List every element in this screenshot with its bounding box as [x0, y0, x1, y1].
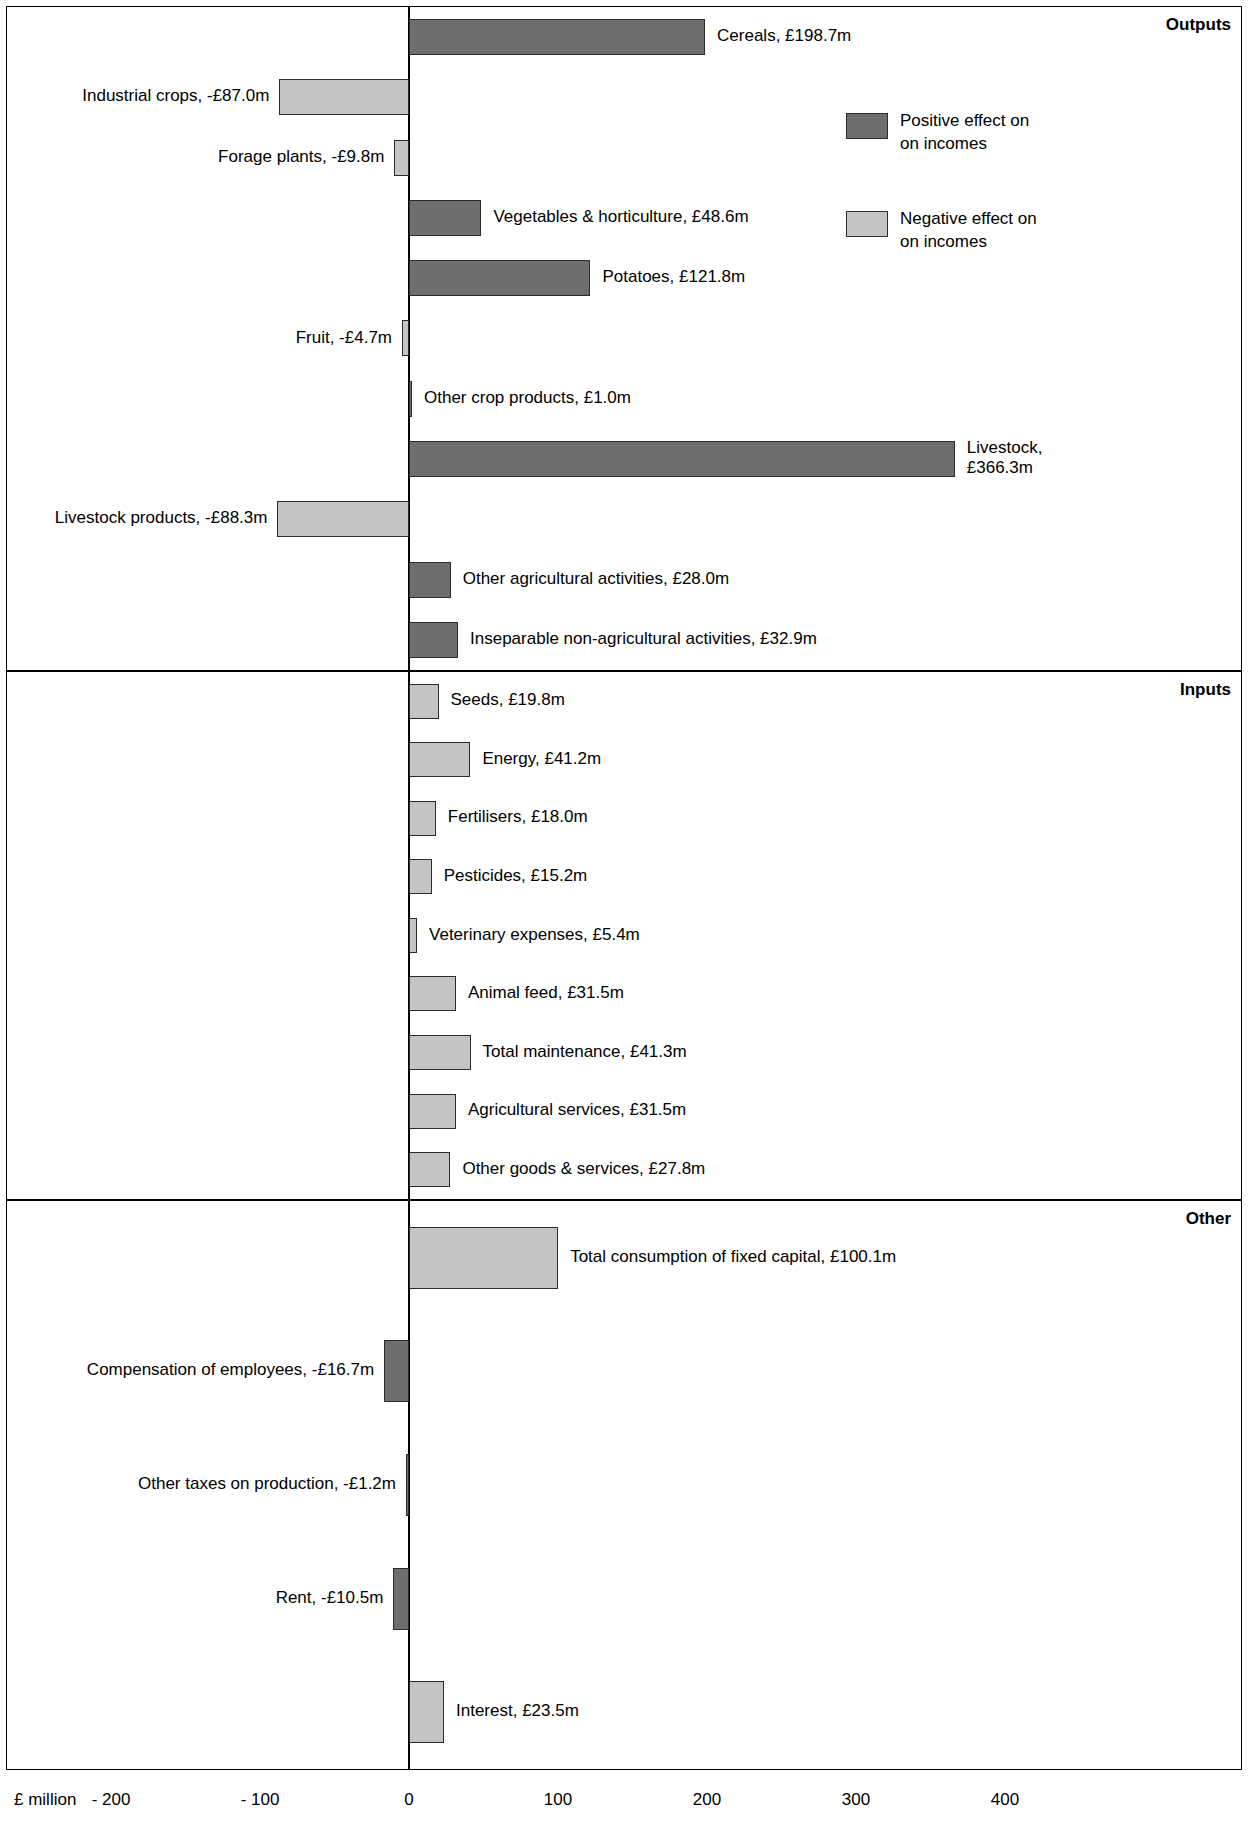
bar-label: Animal feed, £31.5m: [468, 983, 624, 1003]
bar: [409, 918, 417, 953]
bar-label: Agricultural services, £31.5m: [468, 1100, 686, 1120]
legend-label-positive-line2: on incomes: [900, 133, 1029, 156]
bar-label-line: £366.3m: [967, 458, 1043, 478]
panel-title-inputs: Inputs: [1180, 680, 1231, 700]
x-tick-label: - 100: [241, 1790, 280, 1810]
legend-label-positive-line1: Positive effect on: [900, 110, 1029, 133]
legend-swatch-negative: [846, 211, 888, 237]
bar-label: Interest, £23.5m: [456, 1701, 579, 1721]
bar-label: Energy, £41.2m: [482, 749, 601, 769]
bar: [409, 1152, 450, 1187]
bar: [409, 441, 955, 477]
bar-label: Total maintenance, £41.3m: [483, 1042, 687, 1062]
bar-label: Other agricultural activities, £28.0m: [463, 569, 729, 589]
x-tick-label: 0: [404, 1790, 413, 1810]
bar-label: Pesticides, £15.2m: [444, 866, 588, 886]
bar: [409, 622, 458, 658]
bar: [406, 1454, 409, 1516]
bar-label: Livestock products, -£88.3m: [55, 508, 268, 528]
bar-label: Livestock,£366.3m: [967, 438, 1043, 478]
panel-title-outputs: Outputs: [1166, 15, 1231, 35]
bar-label: Seeds, £19.8m: [451, 690, 565, 710]
bar: [279, 79, 409, 115]
bar: [409, 200, 481, 236]
bar-label-line: Livestock,: [967, 438, 1043, 458]
axis-unit-label: £ million: [14, 1790, 76, 1810]
bar: [409, 1035, 471, 1070]
bar: [409, 1094, 456, 1129]
x-tick-label: 100: [544, 1790, 572, 1810]
x-tick-label: 300: [842, 1790, 870, 1810]
bar-label: Veterinary expenses, £5.4m: [429, 925, 640, 945]
bar: [402, 320, 409, 356]
bar: [393, 1568, 409, 1630]
bar-label: Fruit, -£4.7m: [296, 328, 392, 348]
bar: [409, 381, 412, 417]
bar-label: Forage plants, -£9.8m: [218, 147, 384, 167]
legend-label-negative: Negative effect on on incomes: [900, 208, 1037, 254]
bar: [409, 801, 436, 836]
bar-label: Total consumption of fixed capital, £100…: [570, 1247, 896, 1267]
panel-title-other: Other: [1186, 1209, 1231, 1229]
bar: [409, 859, 432, 894]
bar: [409, 742, 470, 777]
legend-swatch-positive: [846, 113, 888, 139]
bar: [409, 1681, 444, 1743]
bar-label: Other goods & services, £27.8m: [462, 1159, 705, 1179]
legend-label-negative-line2: on incomes: [900, 231, 1037, 254]
bar: [409, 19, 705, 55]
bar: [394, 140, 409, 176]
bar-label: Fertilisers, £18.0m: [448, 807, 588, 827]
x-axis: £ million - 200- 1000100200300400: [0, 1790, 1248, 1820]
legend-label-negative-line1: Negative effect on: [900, 208, 1037, 231]
bar-label: Inseparable non-agricultural activities,…: [470, 629, 817, 649]
x-tick-label: 400: [991, 1790, 1019, 1810]
bar-label: Other crop products, £1.0m: [424, 388, 631, 408]
x-tick-label: 200: [693, 1790, 721, 1810]
bar: [409, 684, 439, 719]
bar-label: Other taxes on production, -£1.2m: [138, 1474, 396, 1494]
bar: [409, 976, 456, 1011]
bar-label: Potatoes, £121.8m: [602, 267, 745, 287]
bar-label: Compensation of employees, -£16.7m: [87, 1360, 374, 1380]
bar: [409, 562, 451, 598]
legend-label-positive: Positive effect on on incomes: [900, 110, 1029, 156]
chart-canvas: Outputs Inputs Other Positive effect on …: [0, 0, 1248, 1834]
bar-label: Industrial crops, -£87.0m: [82, 86, 269, 106]
bar: [409, 1227, 558, 1289]
bar: [409, 260, 590, 296]
bar-label: Rent, -£10.5m: [276, 1588, 384, 1608]
bar-label: Cereals, £198.7m: [717, 26, 851, 46]
bar-label: Vegetables & horticulture, £48.6m: [493, 207, 748, 227]
bar: [384, 1340, 409, 1402]
bar: [277, 501, 409, 537]
x-tick-label: - 200: [92, 1790, 131, 1810]
